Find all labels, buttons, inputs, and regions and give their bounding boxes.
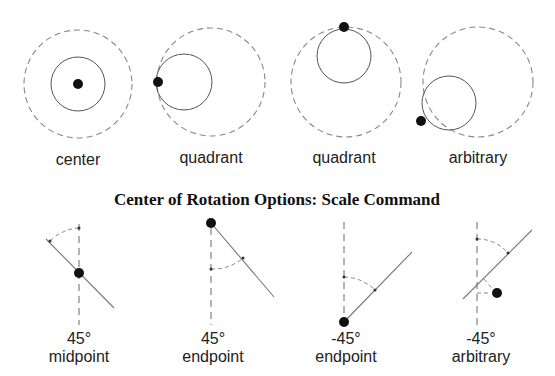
angle-label-4: -45° — [466, 330, 496, 347]
base-point-dot — [153, 77, 163, 87]
angle-arc — [211, 258, 243, 269]
rotated-line — [344, 252, 412, 322]
arc-end-tick — [507, 252, 510, 255]
angle-label-2: 45° — [201, 330, 225, 347]
angle-arc — [344, 277, 375, 290]
diagram-title: Center of Rotation Options: Scale Comman… — [114, 190, 441, 209]
rotation-point-dot — [339, 317, 349, 327]
rotation-point-dot — [492, 288, 502, 298]
arc-end-tick — [49, 240, 52, 243]
arc-start-tick — [78, 227, 81, 230]
rotate-arbitrary-diagram — [463, 222, 532, 325]
angle-arc — [477, 239, 508, 253]
rotate-endpoint-bottom-diagram — [339, 222, 412, 327]
scale-arbitrary-diagram — [416, 27, 533, 137]
method-label-3: endpoint — [315, 348, 377, 365]
rotation-point-dot — [206, 218, 216, 228]
arc-start-tick — [476, 238, 479, 241]
arc-start-tick — [343, 276, 346, 279]
base-point-dot — [73, 79, 83, 89]
diagram-canvas: center quadrant quadrant arbitrary Cente… — [0, 0, 555, 376]
label-center: center — [56, 151, 101, 168]
rotate-endpoint-top-diagram — [206, 218, 274, 325]
arc-start-tick — [210, 268, 213, 271]
scaled-circle-outline — [157, 28, 265, 136]
scaled-circle-outline — [423, 27, 533, 137]
rotation-point-dot — [74, 268, 84, 278]
scale-quadrant-top-diagram — [291, 22, 401, 137]
method-label-4: arbitrary — [452, 348, 511, 365]
rotate-midpoint-diagram — [46, 224, 114, 325]
original-circle — [317, 29, 371, 83]
base-point-dot — [339, 22, 349, 32]
scale-center-diagram — [24, 30, 132, 138]
scaled-circle-outline — [291, 27, 401, 137]
label-quadrant-2: quadrant — [312, 149, 376, 166]
rotated-line — [211, 223, 274, 297]
arc-end-tick — [242, 257, 245, 260]
angle-label-3: -45° — [331, 330, 361, 347]
angle-arc — [50, 228, 79, 241]
base-point-dot — [416, 116, 426, 126]
original-circle — [156, 54, 212, 110]
label-arbitrary: arbitrary — [449, 149, 508, 166]
original-circle — [422, 76, 476, 130]
label-quadrant-1: quadrant — [179, 149, 243, 166]
method-label-2: endpoint — [182, 348, 244, 365]
angle-label-1: 45° — [67, 330, 91, 347]
method-label-1: midpoint — [49, 348, 110, 365]
scale-quadrant-left-diagram — [153, 28, 265, 136]
arc-end-tick — [374, 289, 377, 292]
